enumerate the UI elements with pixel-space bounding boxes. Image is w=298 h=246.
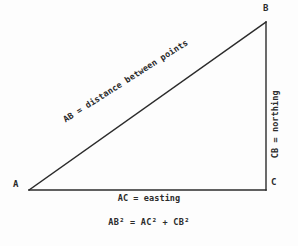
triangle-shape	[0, 0, 298, 246]
vertical-label: CB = northing	[271, 90, 280, 158]
triangle-diagram: A B C AB = distance between points AC = …	[0, 0, 298, 246]
vertex-label-b: B	[263, 4, 269, 13]
triangle-edge-ab	[29, 22, 266, 190]
vertex-label-c: C	[271, 178, 277, 187]
base-label: AC = easting	[0, 194, 298, 203]
pythagorean-formula: AB² = AC² + CB²	[0, 218, 298, 227]
vertex-label-a: A	[13, 180, 19, 189]
